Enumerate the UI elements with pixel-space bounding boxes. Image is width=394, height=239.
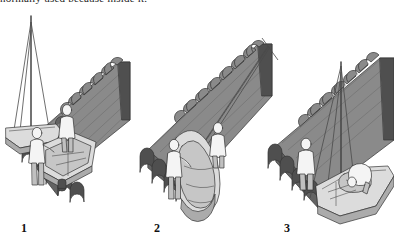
panel-number-2: 2 [154, 222, 160, 234]
panel-2-artwork [140, 40, 272, 221]
panel-1-artwork [6, 16, 130, 202]
illustration-canvas: .ol{stroke:#333;stroke-width:0.7;stroke-… [0, 0, 394, 239]
panel-3-artwork [262, 38, 394, 224]
panel-1-bollard [58, 179, 66, 191]
panel-1-mast-rigging [14, 16, 49, 134]
panel-number-3: 3 [284, 222, 290, 234]
panel-number-1: 1 [21, 222, 27, 234]
figure-root: normally used because inside it. .ol{str… [0, 0, 394, 239]
